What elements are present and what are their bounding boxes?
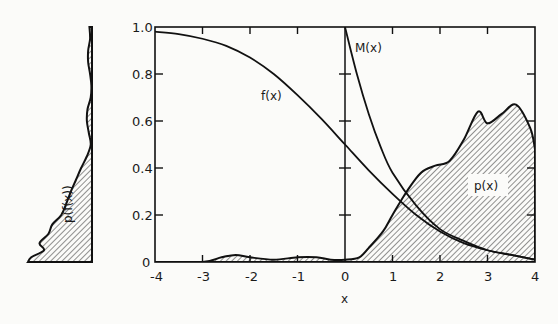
p-curve-label: p(x) — [474, 179, 498, 193]
marginal-label: p(f(x)) — [61, 185, 75, 223]
main-plot: p(x) f(x) M(x) -4 -3 -2 -1 0 1 2 3 4 0 0… — [132, 20, 539, 306]
x-tick-label: -3 — [197, 269, 210, 284]
y-tick-label: 0.2 — [132, 208, 153, 223]
x-tick-labels: -4 -3 -2 -1 0 1 2 3 4 — [150, 269, 539, 284]
x-axis-label: x — [341, 292, 348, 306]
y-tick-labels: 0 0.2 0.4 0.6 0.8 1.0 — [132, 20, 153, 270]
marginal-density-plot: p(f(x)) — [28, 27, 92, 262]
x-tick-label: -1 — [292, 269, 305, 284]
x-tick-label: -2 — [245, 269, 258, 284]
y-tick-label: 0.8 — [132, 67, 153, 82]
x-tick-label: -4 — [150, 269, 163, 284]
x-tick-label: 3 — [484, 269, 492, 284]
x-tick-label: 2 — [436, 269, 444, 284]
marginal-density-area — [28, 27, 92, 262]
y-tick-label: 0.6 — [132, 114, 153, 129]
figure: p(f(x)) p(x) f(x) M(x) -4 -3 -2 -1 0 1 2… — [0, 0, 558, 324]
x-tick-label: 1 — [389, 269, 397, 284]
y-tick-label: 0.4 — [132, 161, 153, 176]
f-curve-label: f(x) — [261, 89, 282, 103]
x-tick-label: 4 — [531, 269, 539, 284]
y-tick-label: 0 — [142, 255, 150, 270]
m-curve-label: M(x) — [355, 41, 382, 55]
x-tick-label: 0 — [341, 269, 349, 284]
y-tick-label: 1.0 — [132, 20, 153, 35]
